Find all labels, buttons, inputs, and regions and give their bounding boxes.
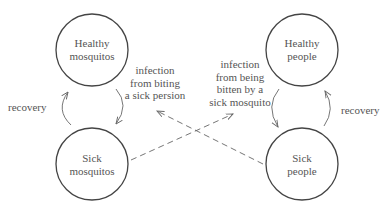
mosquito-recovery-arrow — [62, 92, 71, 125]
mosquito-recovery-label: recovery — [8, 101, 46, 114]
healthy-people-label: Healthy people — [267, 37, 337, 63]
healthy-mosquitos-label: Healthy mosquitos — [57, 37, 127, 63]
people-recovery-arrow — [324, 91, 330, 126]
diagram-canvas — [0, 0, 392, 210]
sick-mosquito-to-healthy-people-arrow — [131, 114, 233, 160]
sick-mosquitos-label: Sick mosquitos — [57, 152, 127, 178]
people-infection-arrow — [272, 89, 279, 127]
people-infection-label: infection from being bitten by a sick mo… — [208, 58, 272, 108]
sick-people-to-healthy-mosquito-arrow — [157, 111, 263, 164]
sick-people-label: Sick people — [267, 152, 337, 178]
mosquito-infection-label: infection from biting a sick persion — [124, 64, 186, 102]
mosquito-infection-arrow — [116, 89, 123, 124]
people-recovery-label: recovery — [341, 104, 379, 117]
